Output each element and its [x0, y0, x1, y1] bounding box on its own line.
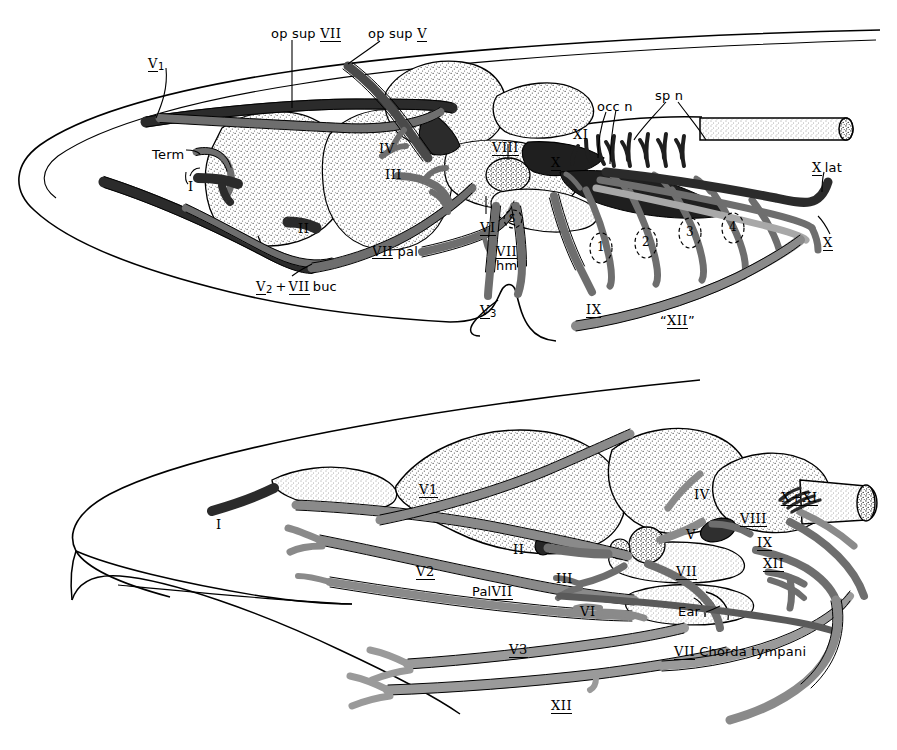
label-vii-hm: VII hm — [496, 245, 517, 272]
label-pal-vii-text: Pal — [472, 584, 491, 599]
label-v2-lower-numeral: V2 — [416, 565, 435, 580]
label-iii-upper: III — [385, 168, 402, 182]
ganglion-3-number: 3 — [686, 225, 694, 239]
label-iii-upper-numeral: III — [385, 168, 402, 182]
label-vii-hm-text: hm — [496, 259, 517, 272]
label-xii-lower: XII — [551, 699, 572, 714]
nerve-v3-fork-b — [372, 670, 410, 680]
label-op-sup-v-text: op sup — [368, 26, 413, 41]
label-viii-upper-numeral: VIII — [492, 141, 519, 156]
label-vii-lower: VII — [676, 565, 697, 580]
label-i-upper: I — [188, 180, 194, 194]
label-op-sup-vii-numeral: VII — [320, 27, 341, 42]
label-v-lower: V — [686, 528, 696, 542]
label-chorda-text: Chorda tympani — [699, 644, 806, 659]
label-x-lat: Xlat — [812, 161, 842, 176]
label-v2-vii-buc: V2+VIIbuc — [256, 280, 337, 296]
label-v-lower-numeral: V — [686, 528, 696, 542]
label-ii-lower-numeral: II — [513, 543, 524, 557]
label-op-sup-vii-text: op sup — [271, 26, 316, 41]
label-x-xi-numeral: X+XI — [781, 491, 818, 506]
label-occ-n-text: occ n — [597, 99, 633, 114]
nerve-v2-fork-b — [290, 546, 322, 552]
nerve-v2-fork-a — [288, 528, 320, 540]
label-iii-lower-numeral: III — [556, 572, 573, 586]
label-x-lower-upperpanel: X — [823, 236, 833, 251]
label-x-lat-numeral: X — [812, 161, 822, 176]
label-v1-upper-sub: 1 — [158, 61, 165, 72]
label-viii-lower: VIII — [740, 512, 767, 527]
label-viii-lower-numeral: VIII — [740, 512, 767, 527]
ganglion-2-number: 2 — [642, 235, 650, 249]
ganglion-label-2: 2 — [642, 236, 650, 249]
label-v1-lower-numeral: V1 — [419, 483, 438, 498]
label-occ-n: occ n — [597, 100, 633, 114]
label-sp-n: sp n — [655, 89, 683, 103]
label-chorda-numeral: VII — [674, 645, 695, 660]
label-xii-lower-numeral: XII — [551, 699, 572, 714]
lower-head-outline-mouthline — [118, 585, 352, 604]
label-xii-side-numeral: XII — [763, 557, 784, 572]
label-viii-upper: VIII — [492, 141, 519, 156]
label-v1-lower: V1 — [419, 483, 438, 498]
label-v3-upper-sub: 3 — [490, 308, 497, 319]
nerve-i-lower — [212, 488, 274, 511]
label-i-upper-numeral: I — [188, 180, 194, 194]
label-i-lower-numeral: I — [216, 518, 222, 532]
nerve-pal-vii-fork — [298, 576, 330, 582]
label-x-upper-numeral: X — [551, 156, 561, 171]
label-s-ganglion: S — [509, 214, 516, 225]
label-xii-side: XII — [763, 557, 784, 572]
label-chorda-tympani: VIIChorda tympani — [674, 645, 806, 660]
label-v3-upper-numeral: V — [480, 304, 490, 319]
label-x-upper: X — [551, 156, 561, 171]
label-v2-lower: V2 — [416, 565, 435, 580]
nerve-v3-fork-a — [370, 650, 408, 664]
upper-panel-drawing — [19, 30, 880, 341]
label-v1-upper: V1 — [148, 57, 164, 73]
label-ii-upper: II — [298, 222, 309, 236]
label-v3-lower: V3 — [509, 643, 528, 658]
label-vii-pal-numeral: VII — [372, 245, 393, 259]
label-vi-upper: VI — [480, 221, 496, 236]
nerve-xii-fork-b — [352, 696, 390, 706]
label-pal-vii: PalVII — [472, 585, 513, 600]
label-v2-vii-buc-sub: 2 — [266, 284, 273, 295]
lower-medulla-cut — [857, 485, 875, 521]
label-ear: Ear — [678, 605, 700, 619]
ganglion-label-3: 3 — [686, 226, 694, 239]
label-v3-upper: V3 — [480, 304, 496, 320]
label-vii-lower-numeral: VII — [676, 565, 697, 580]
label-v3-lower-numeral: V3 — [509, 643, 528, 658]
ganglion-4-number: 4 — [729, 220, 737, 234]
label-s-ganglion-text: S — [509, 213, 516, 224]
label-pal-vii-numeral: VII — [491, 585, 512, 600]
upper-viii-ganglion — [486, 158, 530, 192]
ganglion-label-1: 1 — [597, 241, 605, 254]
label-ix-lower: IX — [757, 536, 772, 551]
label-term: Term — [152, 148, 184, 162]
label-ear-text: Ear — [678, 604, 700, 619]
ganglion-label-4: 4 — [729, 221, 737, 234]
upper-notochord — [560, 117, 853, 140]
label-vi-lower: VI — [580, 605, 596, 619]
figure-page: op sup VII op sup V V1 Term I II III IV … — [0, 0, 897, 750]
label-x-lat-text: lat — [825, 160, 842, 175]
anatomical-figure — [0, 0, 897, 750]
label-vii-hm-numeral: VII — [496, 245, 517, 259]
label-xi-upper-numeral: XI — [573, 128, 588, 142]
label-ix-upper: IX — [586, 303, 601, 318]
nerve-xii-root-b — [790, 578, 792, 608]
label-iv-lower: IV — [694, 488, 710, 502]
label-iv-lower-numeral: IV — [694, 488, 710, 502]
label-ix-upper-numeral: IX — [586, 303, 601, 318]
upper-spinal-roots — [572, 134, 684, 166]
label-term-text: Term — [152, 147, 184, 162]
label-v2-vii-buc-numeral: V — [256, 280, 266, 295]
label-vii-pal: VII pal — [372, 245, 418, 259]
nerve-x-descending — [812, 228, 818, 250]
label-sp-n-text: sp n — [655, 88, 683, 103]
label-i-lower: I — [216, 518, 222, 532]
nerve-iii-lower — [580, 566, 624, 584]
label-op-sup-v-numeral: V — [417, 27, 427, 42]
